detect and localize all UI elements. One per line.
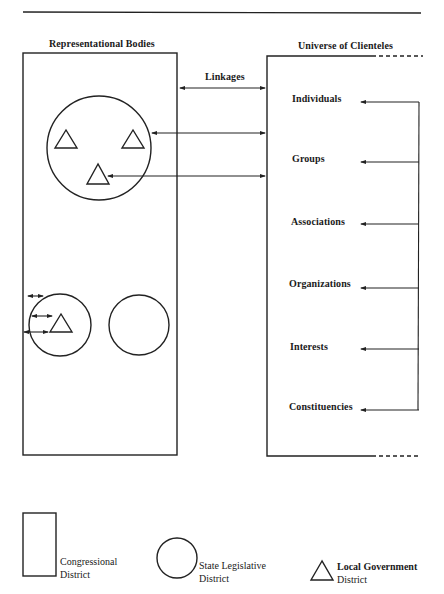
legend-local-label: Local Government District — [337, 560, 417, 586]
clientele-label-constituencies: Constituencies — [289, 401, 353, 412]
clientele-label-interests: Interests — [290, 341, 328, 352]
legend-congressional-rect — [23, 513, 56, 576]
diagram-canvas — [0, 0, 444, 594]
legend-congressional-line2: District — [60, 568, 117, 581]
linkages-label: Linkages — [205, 71, 245, 82]
left-panel-title: Representational Bodies — [49, 38, 155, 49]
local-government-triangle — [87, 164, 109, 184]
clientele-label-individuals: Individuals — [292, 93, 341, 104]
legend-congressional-label: Congressional District — [60, 555, 117, 581]
right-panel-title: Universe of Clienteles — [298, 40, 393, 51]
legend-state-label: State Legislative District — [199, 559, 266, 585]
clientele-label-organizations: Organizations — [289, 278, 351, 289]
top-rule — [23, 12, 421, 13]
clientele-label-associations: Associations — [291, 216, 345, 227]
congressional-district-box — [23, 53, 177, 455]
legend-local-line2: District — [337, 573, 417, 586]
local-government-triangle — [122, 130, 144, 148]
clienteles-box — [267, 56, 372, 456]
legend-state-line2: District — [199, 572, 266, 585]
legend-local-line1: Local Government — [337, 560, 417, 573]
legend-state-circle — [157, 538, 197, 578]
legend-state-line1: State Legislative — [199, 559, 266, 572]
local-government-triangle-small — [50, 314, 72, 332]
clientele-label-groups: Groups — [292, 153, 325, 164]
legend-congressional-line1: Congressional — [60, 555, 117, 568]
legend-local-triangle — [311, 561, 333, 580]
local-government-triangle — [55, 130, 77, 148]
clientele-arrows — [361, 102, 419, 410]
state-legislative-circle-small — [29, 294, 91, 356]
clientele-bracket-vertical — [418, 102, 419, 410]
state-legislative-circle-empty — [109, 295, 169, 355]
